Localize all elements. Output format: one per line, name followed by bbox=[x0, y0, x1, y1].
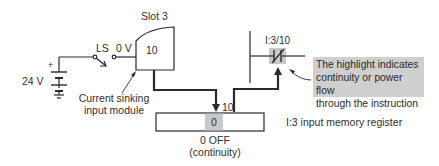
register-state-line1: 0 OFF bbox=[184, 134, 246, 146]
switch-label: LS bbox=[96, 42, 109, 54]
register-bit-number: 10 bbox=[222, 101, 234, 113]
register-name-label: I:3 input memory register bbox=[286, 116, 402, 128]
slot-label: Slot 3 bbox=[141, 10, 168, 22]
instruction-address-label: I:3/10 bbox=[265, 35, 290, 47]
battery-plus-label: + bbox=[48, 59, 53, 71]
module-terminal-label: 10 bbox=[146, 44, 158, 56]
module-caption-line2: input module bbox=[74, 104, 154, 116]
register-state-line2: (continuity) bbox=[180, 146, 250, 158]
terminal-voltage-label: 0 V bbox=[116, 42, 132, 54]
battery-voltage-label: 24 V bbox=[22, 75, 44, 87]
highlight-note: The highlight indicates continuity or po… bbox=[313, 57, 424, 97]
note-line3: through the instruction bbox=[316, 97, 422, 110]
limit-switch-icon bbox=[93, 55, 136, 66]
module-caption-line1: Current sinking bbox=[74, 92, 154, 104]
ground-icon bbox=[54, 95, 64, 98]
note-line2: continuity or power flow bbox=[316, 71, 422, 97]
register-bit-value: 0 bbox=[205, 116, 223, 128]
battery-icon bbox=[51, 57, 94, 95]
note-line1: The highlight indicates bbox=[316, 58, 422, 71]
